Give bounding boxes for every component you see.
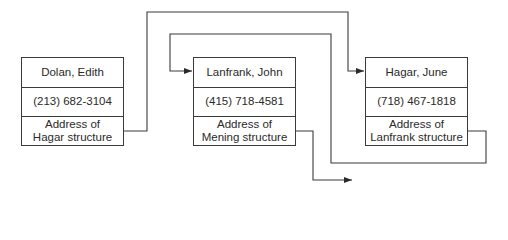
name-field: Lanfrank, John (194, 58, 295, 88)
pointer-label-line2: Hagar structure (33, 131, 112, 144)
pointer-label-line1: Address of (217, 118, 272, 131)
record-hagar: Hagar, June (718) 467-1818 Address of La… (365, 57, 468, 146)
pointer-label-line1: Address of (45, 118, 100, 131)
phone-field: (213) 682-3104 (22, 87, 123, 117)
link-lanfrank-to-mening (291, 127, 352, 180)
name-field: Hagar, June (366, 58, 467, 88)
pointer-field: Address of Mening structure (194, 116, 295, 145)
pointer-label-line1: Address of (389, 118, 444, 131)
phone-field: (415) 718-4581 (194, 87, 295, 117)
pointer-field: Address of Hagar structure (22, 116, 123, 145)
pointer-field: Address of Lanfrank structure (366, 116, 467, 145)
record-dolan: Dolan, Edith (213) 682-3104 Address of H… (21, 57, 124, 146)
record-lanfrank: Lanfrank, John (415) 718-4581 Address of… (193, 57, 296, 146)
pointer-label-line2: Mening structure (202, 131, 288, 144)
phone-field: (718) 467-1818 (366, 87, 467, 117)
pointer-label-line2: Lanfrank structure (370, 131, 463, 144)
name-field: Dolan, Edith (22, 58, 123, 88)
